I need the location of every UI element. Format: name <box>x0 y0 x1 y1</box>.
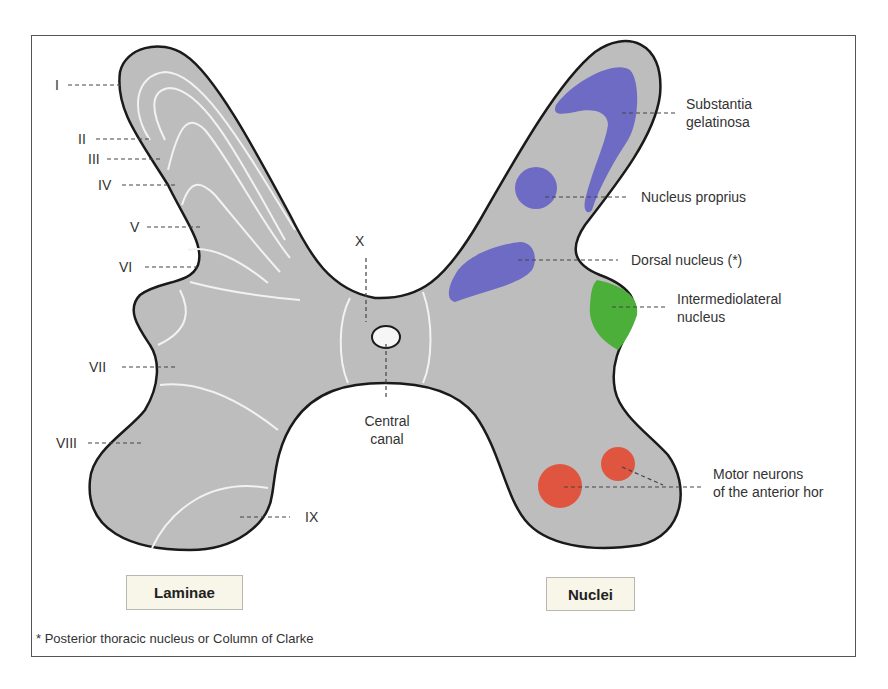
lamina-label-vii: VII <box>89 358 106 376</box>
motor-neurons-label: Motor neurons of the anterior hor <box>713 465 824 501</box>
intermediolateral-line2: nucleus <box>677 308 781 326</box>
lamina-label-viii: VIII <box>56 434 77 452</box>
lamina-label-ix: IX <box>305 508 318 526</box>
nucleus-proprius-label: Nucleus proprius <box>641 188 746 206</box>
nuclei-legend-box: Nuclei <box>546 577 635 611</box>
motor-neuron-large <box>538 464 582 508</box>
lamina-label-ii: II <box>78 130 86 148</box>
central-canal-label: Central canal <box>352 412 422 448</box>
lamina-label-x: X <box>355 232 364 250</box>
intermediolateral-line1: Intermediolateral <box>677 290 781 308</box>
motor-neurons-line1: Motor neurons <box>713 465 824 483</box>
substantia-gelatinosa-line2: gelatinosa <box>686 113 752 131</box>
substantia-gelatinosa-label: Substantia gelatinosa <box>686 95 752 131</box>
lamina-label-iv: IV <box>98 176 111 194</box>
lamina-label-vi: VI <box>119 258 132 276</box>
dorsal-nucleus-label: Dorsal nucleus (*) <box>631 251 742 269</box>
lamina-label-iii: III <box>88 150 100 168</box>
lamina-label-i: I <box>55 76 59 94</box>
central-canal-label-line1: Central <box>352 412 422 430</box>
motor-neuron-small <box>601 447 635 481</box>
laminae-legend-box: Laminae <box>126 575 243 610</box>
central-canal-label-line2: canal <box>352 430 422 448</box>
substantia-gelatinosa-line1: Substantia <box>686 95 752 113</box>
motor-neurons-line2: of the anterior hor <box>713 483 824 501</box>
lamina-label-v: V <box>130 218 139 236</box>
footnote: * Posterior thoracic nucleus or Column o… <box>36 631 313 646</box>
intermediolateral-nucleus-label: Intermediolateral nucleus <box>677 290 781 326</box>
nucleus-proprius-shape <box>515 167 557 209</box>
